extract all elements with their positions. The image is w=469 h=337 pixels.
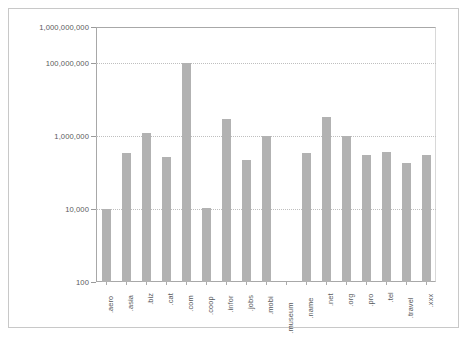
bar-slot	[396, 27, 416, 282]
bar-slot	[416, 27, 436, 282]
y-axis-tick-label: 100,000,000	[46, 59, 89, 68]
x-axis-tick-label: .asia	[126, 295, 135, 311]
bar[interactable]	[242, 160, 251, 282]
x-axis-tick-label: .aero	[106, 296, 115, 313]
x-axis-tick-label: .museum	[286, 303, 295, 334]
y-axis-tick-mark	[91, 282, 96, 283]
bar[interactable]	[302, 153, 311, 282]
x-axis-tick-mark	[166, 282, 167, 285]
bar[interactable]	[142, 133, 151, 282]
chart-figure: 1,000,000,000100,000,0001,000,00010,0001…	[8, 8, 459, 328]
x-axis-label-slot: .com	[176, 285, 196, 331]
x-axis-label-slot: .aero	[96, 285, 116, 331]
x-axis-tick-mark	[386, 282, 387, 285]
bar[interactable]	[182, 63, 191, 282]
bar[interactable]	[102, 209, 111, 282]
bar[interactable]	[402, 163, 411, 282]
x-axis-tick-label: .cat	[166, 293, 175, 305]
x-axis-labels: .aero.asia.biz.cat.com.coop.infor.jobs.m…	[96, 285, 436, 331]
x-axis-tick-label: .name	[306, 298, 315, 319]
x-axis-tick-mark	[206, 282, 207, 285]
bar-slot	[236, 27, 256, 282]
bar-slot	[316, 27, 336, 282]
bar[interactable]	[222, 119, 231, 282]
x-axis-tick-label: .jobs	[246, 295, 255, 311]
bar-slot	[256, 27, 276, 282]
x-axis-label-slot: .xxx	[416, 285, 436, 331]
bar-slot	[136, 27, 156, 282]
x-axis-tick-mark	[366, 282, 367, 285]
x-axis-label-slot: .jobs	[236, 285, 256, 331]
bar-slot	[376, 27, 396, 282]
x-axis-tick-label: .org	[346, 294, 355, 307]
plot-area: 1,000,000,000100,000,0001,000,00010,0001…	[96, 27, 436, 282]
x-axis-label-slot: .tel	[376, 285, 396, 331]
x-axis-tick-mark	[406, 282, 407, 285]
x-axis-label-slot: .travel	[396, 285, 416, 331]
bar[interactable]	[322, 117, 331, 282]
bar-slot	[296, 27, 316, 282]
x-axis-label-slot: .org	[336, 285, 356, 331]
x-axis-tick-label: .com	[186, 295, 195, 311]
bar-slot	[216, 27, 236, 282]
y-axis-tick-label: 1,000,000,000	[39, 23, 89, 32]
bar[interactable]	[422, 155, 431, 282]
x-axis-label-slot: .mobi	[256, 285, 276, 331]
x-axis-tick-label: .xxx	[426, 294, 435, 308]
x-axis-tick-mark	[326, 282, 327, 285]
x-axis-tick-label: .net	[326, 293, 335, 306]
x-axis-label-slot: .museum	[276, 285, 296, 331]
x-axis-label-slot: .biz	[136, 285, 156, 331]
x-axis-tick-label: .tel	[386, 292, 395, 302]
x-axis-tick-mark	[126, 282, 127, 285]
x-axis-label-slot: .asia	[116, 285, 136, 331]
x-axis-tick-mark	[246, 282, 247, 285]
bar-slot	[336, 27, 356, 282]
bar-slot	[156, 27, 176, 282]
bar-slot	[276, 27, 296, 282]
x-axis-tick-mark	[226, 282, 227, 285]
x-axis-tick-mark	[146, 282, 147, 285]
x-axis-tick-label: .biz	[146, 293, 155, 305]
x-axis-tick-mark	[106, 282, 107, 285]
bar-slot	[96, 27, 116, 282]
bar[interactable]	[202, 208, 211, 282]
bar[interactable]	[122, 153, 131, 282]
x-axis-label-slot: .pro	[356, 285, 376, 331]
x-axis-label-slot: .coop	[196, 285, 216, 331]
x-axis-label-slot: .net	[316, 285, 336, 331]
bar[interactable]	[262, 136, 271, 282]
bar-slot	[116, 27, 136, 282]
bar[interactable]	[382, 152, 391, 282]
bar-slot	[176, 27, 196, 282]
bars-group	[96, 27, 436, 282]
x-axis-tick-label: .pro	[366, 294, 375, 307]
bar[interactable]	[342, 136, 351, 282]
x-axis-tick-mark	[426, 282, 427, 285]
y-axis-tick-label: 10,000	[65, 205, 89, 214]
bar-slot	[356, 27, 376, 282]
y-axis-tick-label: 100	[76, 278, 89, 287]
x-axis-tick-mark	[186, 282, 187, 285]
bar[interactable]	[362, 155, 371, 282]
x-axis-label-slot: .infor	[216, 285, 236, 331]
y-axis-tick-label: 1,000,000	[54, 132, 89, 141]
x-axis-label-slot: .name	[296, 285, 316, 331]
x-axis-tick-mark	[286, 282, 287, 285]
x-axis-tick-label: .mobi	[266, 296, 275, 315]
x-axis-tick-mark	[266, 282, 267, 285]
x-axis-tick-mark	[346, 282, 347, 285]
x-axis-tick-label: .travel	[406, 297, 415, 318]
x-axis-tick-label: .coop	[206, 296, 215, 315]
x-axis-label-slot: .cat	[156, 285, 176, 331]
x-axis-tick-label: .infor	[226, 296, 235, 313]
x-axis-tick-mark	[306, 282, 307, 285]
bar[interactable]	[162, 157, 171, 282]
bar-slot	[196, 27, 216, 282]
